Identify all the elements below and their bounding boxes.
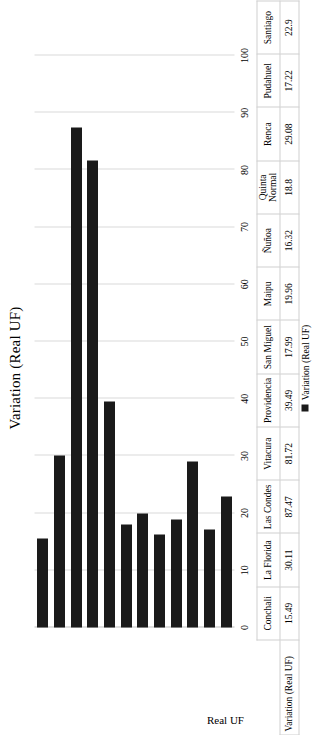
bar-row xyxy=(84,55,101,627)
bar-row xyxy=(117,55,134,627)
bar xyxy=(120,524,131,627)
table-row-categories: ConchaliLa FloridaLas CondesVitacuraProv… xyxy=(257,1,280,735)
tick-label-100: 100 xyxy=(238,48,249,63)
table-cell-value: 29.08 xyxy=(279,107,298,160)
legend-swatch-icon xyxy=(301,404,308,411)
bar-row xyxy=(34,55,51,627)
tick-label-0: 0 xyxy=(238,625,249,630)
table-cell-category: Conchali xyxy=(257,586,280,639)
table-cell-category: Providencia xyxy=(257,373,280,426)
bar xyxy=(187,461,198,627)
table-cell-category: San Miguel xyxy=(257,320,280,373)
y-axis-tick-labels: 0102030405060708090100 xyxy=(238,55,254,627)
table-cell-category: Las Condes xyxy=(257,480,280,533)
table-cell-category: Maipu xyxy=(257,267,280,320)
bar xyxy=(170,519,181,627)
bar-row xyxy=(151,55,168,627)
table-cell-value: 17.99 xyxy=(279,320,298,373)
table-cell-value: 22.9 xyxy=(279,1,298,54)
bar-row xyxy=(167,55,184,627)
table-cell-value: 87.47 xyxy=(279,480,298,533)
table-cell-value: 30.11 xyxy=(279,533,298,586)
table-cell-value: 39.49 xyxy=(279,373,298,426)
bar xyxy=(37,538,48,627)
bar xyxy=(103,401,114,627)
bar-row xyxy=(101,55,118,627)
table-cell-category: Vitacura xyxy=(257,427,280,480)
table-cell-category: Renca xyxy=(257,107,280,160)
tick-label-70: 70 xyxy=(238,222,249,232)
table-cell-value: 15.49 xyxy=(279,586,298,639)
bar-row xyxy=(184,55,201,627)
bar xyxy=(87,160,98,627)
chart-figure: Variation (Real UF) Real UF 010203040506… xyxy=(0,0,333,735)
table-corner-cell xyxy=(257,640,280,735)
legend-label: Variation (Real UF) xyxy=(301,324,311,399)
tick-label-60: 60 xyxy=(238,279,249,289)
plot-area xyxy=(34,55,234,627)
table-cell-category: Ñuñoa xyxy=(257,214,280,267)
tick-label-50: 50 xyxy=(238,336,249,346)
bar xyxy=(53,455,64,627)
table-cell-category: Santiago xyxy=(257,1,280,54)
tick-label-20: 20 xyxy=(238,508,249,518)
table-cell-value: 81.72 xyxy=(279,427,298,480)
table-row-header: Variation (Real UF) xyxy=(279,640,298,735)
bar-series xyxy=(34,55,234,627)
tick-label-40: 40 xyxy=(238,393,249,403)
table-cell-category: La Florida xyxy=(257,533,280,586)
bar xyxy=(153,534,164,627)
tick-label-80: 80 xyxy=(238,164,249,174)
bar xyxy=(70,127,81,627)
tick-label-90: 90 xyxy=(238,107,249,117)
bar xyxy=(220,496,231,627)
bar-row xyxy=(67,55,84,627)
tick-label-10: 10 xyxy=(238,565,249,575)
bar-row xyxy=(217,55,234,627)
table-cell-value: 17.22 xyxy=(279,54,298,107)
data-table: ConchaliLa FloridaLas CondesVitacuraProv… xyxy=(256,0,326,735)
chart-title: Variation (Real UF) xyxy=(6,0,23,735)
bar xyxy=(137,513,148,627)
bar-row xyxy=(134,55,151,627)
chart-legend: Variation (Real UF) xyxy=(300,0,311,735)
table-cell-category: Quinta Normal xyxy=(257,160,280,213)
table-cell-category: Pudahuel xyxy=(257,54,280,107)
rotated-figure-wrapper: Variation (Real UF) Real UF 010203040506… xyxy=(0,0,333,735)
table-cell-value: 16.32 xyxy=(279,214,298,267)
table-cell-value: 18.8 xyxy=(279,160,298,213)
bar-row xyxy=(51,55,68,627)
bar xyxy=(203,529,214,627)
tick-label-30: 30 xyxy=(238,450,249,460)
bar-row xyxy=(201,55,218,627)
table-row-values: Variation (Real UF) 15.4930.1187.4781.72… xyxy=(279,1,298,735)
table-cell-value: 19.96 xyxy=(279,267,298,320)
